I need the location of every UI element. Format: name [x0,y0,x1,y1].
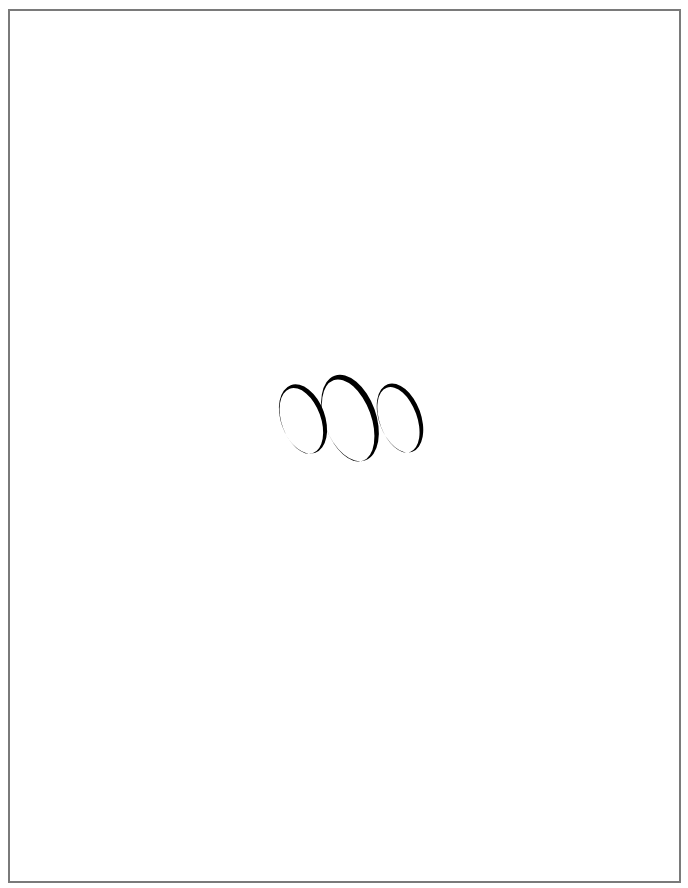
right-ring-icon [368,377,430,459]
left-ring-icon [270,378,336,461]
rings-icon [270,365,430,470]
rings-graphic: three tilted crescent rings [270,365,430,470]
